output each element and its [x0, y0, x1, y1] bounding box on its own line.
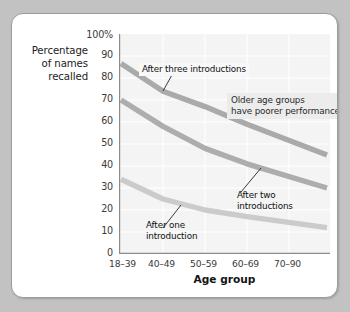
x-tick-18-39: 18–39 — [109, 258, 136, 269]
y-tick-20: 20 — [69, 203, 113, 214]
x-axis-tick-labels: 18–39 40–49 50–59 60–69 70–90 — [119, 258, 334, 272]
annotation-older-age-groups-line-2: have poorer performance — [231, 106, 338, 117]
y-tick-90: 90 — [69, 49, 113, 60]
annotation-after-one-introduction-line-1: After one — [146, 220, 197, 231]
annotation-older-age-groups-line-1: Older age groups — [231, 95, 338, 106]
annotation-after-two-introductions-line-2: introductions — [237, 201, 293, 212]
annotation-after-one-introduction-line-2: introduction — [146, 231, 197, 242]
x-tick-70-90: 70–90 — [274, 258, 301, 269]
y-tick-70: 70 — [69, 93, 113, 104]
y-tick-10: 10 — [69, 225, 113, 236]
y-tick-50: 50 — [69, 137, 113, 148]
annotation-older-age-groups: Older age groups have poorer performance — [227, 93, 338, 119]
annotation-after-one-introduction: After one introduction — [144, 220, 199, 242]
annotation-after-two-introductions-line-1: After two — [237, 190, 293, 201]
plot-area: After three introductions Older age grou… — [119, 34, 330, 254]
x-tick-60-69: 60–69 — [232, 258, 259, 269]
figure-card: Percentage of names recalled 100% 90 80 … — [11, 13, 338, 298]
y-tick-60: 60 — [69, 115, 113, 126]
x-axis-title: Age group — [119, 273, 330, 285]
annotation-after-three-introductions: After three introductions — [139, 63, 249, 76]
y-tick-30: 30 — [69, 181, 113, 192]
y-tick-100: 100% — [69, 29, 113, 40]
y-tick-80: 80 — [69, 71, 113, 82]
x-tick-40-49: 40–49 — [148, 258, 175, 269]
annotation-after-two-introductions: After two introductions — [235, 190, 295, 212]
annotation-after-three-introductions-line-1: After three introductions — [142, 64, 246, 74]
y-tick-0: 0 — [69, 247, 113, 258]
y-axis-tick-labels: 100% 90 80 70 60 50 40 30 20 10 0 — [69, 14, 117, 274]
x-tick-50-59: 50–59 — [190, 258, 217, 269]
y-tick-40: 40 — [69, 159, 113, 170]
